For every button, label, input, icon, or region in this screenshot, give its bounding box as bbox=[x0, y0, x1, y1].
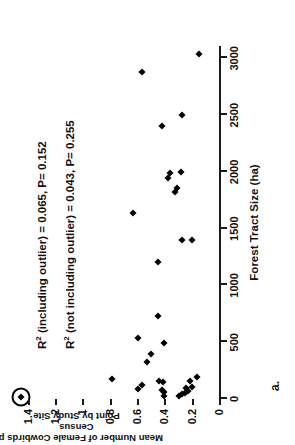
x-tick-mark bbox=[221, 170, 227, 172]
x-tick-mark bbox=[221, 227, 227, 229]
y-tick-mark bbox=[219, 399, 221, 405]
x-tick-label: 0 bbox=[228, 396, 240, 402]
x-axis-title: Forest Tract Size (ha) bbox=[248, 46, 260, 399]
annotation-r2-including-outlier: R2 (including outlier) = 0.065, P= 0.152 bbox=[34, 141, 48, 349]
annotation-text: (including outlier) = 0.065, P= 0.152 bbox=[36, 141, 48, 336]
data-point bbox=[109, 376, 116, 383]
panel-label: a. bbox=[268, 381, 282, 391]
data-point bbox=[177, 168, 184, 175]
x-axis-line bbox=[219, 46, 221, 399]
data-point bbox=[135, 334, 142, 341]
y-tick-mark bbox=[164, 399, 166, 405]
x-tick-label: 1500 bbox=[228, 216, 240, 240]
x-tick-label: 1000 bbox=[228, 273, 240, 297]
data-point bbox=[139, 68, 146, 75]
y-tick-mark bbox=[110, 399, 112, 405]
data-point bbox=[194, 374, 201, 381]
data-point bbox=[154, 313, 161, 320]
data-point bbox=[143, 358, 150, 365]
y-axis-title-line-2: Point by Study Site bbox=[0, 410, 179, 421]
x-tick-mark bbox=[221, 340, 227, 342]
x-tick-label: 500 bbox=[228, 333, 240, 351]
annotation-text: (not including outlier) = 0.043, P= 0.25… bbox=[64, 120, 76, 336]
y-axis-title: Mean Number of Female Cowbirds per Censu… bbox=[0, 410, 179, 443]
scatter-plot-figure: 00.20.40.60.811.21.4 R2 (including outli… bbox=[0, 0, 295, 445]
x-tick-mark bbox=[221, 56, 227, 58]
y-tick-mark bbox=[28, 399, 30, 405]
x-tick-label: 2500 bbox=[228, 103, 240, 127]
x-tick-mark bbox=[221, 113, 227, 115]
x-tick-label: 2000 bbox=[228, 160, 240, 184]
data-point bbox=[147, 350, 154, 357]
figure-page: { "panel": { "label": "a." }, "chart_dat… bbox=[0, 0, 295, 445]
x-tick-label: 3000 bbox=[228, 46, 240, 70]
annotation-symbol: R bbox=[36, 341, 48, 349]
data-point bbox=[158, 123, 165, 130]
y-tick-mark bbox=[137, 399, 139, 405]
rotated-figure-stage: 00.20.40.60.811.21.4 R2 (including outli… bbox=[0, 0, 295, 445]
annotation-superscript: 2 bbox=[34, 336, 43, 340]
y-tick-mark bbox=[192, 399, 194, 405]
x-tick-mark bbox=[221, 397, 227, 399]
data-point bbox=[161, 340, 168, 347]
data-point bbox=[129, 209, 136, 216]
y-tick-mark bbox=[55, 399, 57, 405]
y-tick-label: 0.2 bbox=[186, 409, 198, 445]
data-point bbox=[179, 112, 186, 119]
y-tick-mark bbox=[82, 399, 84, 405]
data-point bbox=[154, 258, 161, 265]
annotation-symbol: R bbox=[64, 341, 76, 349]
y-axis-title-line-1: Mean Number of Female Cowbirds per Censu… bbox=[0, 421, 179, 443]
y-tick-label: 0 bbox=[213, 409, 225, 445]
data-point bbox=[188, 237, 195, 244]
annotation-superscript: 2 bbox=[62, 336, 71, 340]
annotation-r2-not-including-outlier: R2 (not including outlier) = 0.043, P= 0… bbox=[62, 120, 76, 349]
data-point bbox=[195, 50, 202, 57]
x-tick-mark bbox=[221, 283, 227, 285]
data-point bbox=[179, 237, 186, 244]
